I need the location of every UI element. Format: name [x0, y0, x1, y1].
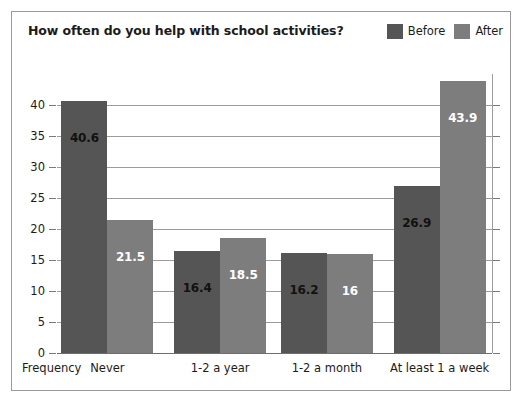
y-axis-tick-label: 15 — [17, 253, 45, 267]
x-axis-line — [57, 353, 492, 354]
y-axis-tick-label: 30 — [17, 160, 45, 174]
y-axis-tick-mark — [493, 167, 500, 168]
y-axis-tick-label: 0 — [17, 346, 45, 360]
bar-after-1-2-a-year: 18.5 — [220, 238, 266, 353]
gridline — [57, 136, 492, 137]
x-axis-category-label: At least 1 a week — [370, 361, 510, 375]
y-axis-tick-mark — [493, 291, 500, 292]
chart-screenshot: How often do you help with school activi… — [0, 0, 525, 407]
bar-value-label: 40.6 — [61, 131, 107, 145]
y-axis-tick-label: 10 — [17, 284, 45, 298]
bar-value-label: 16 — [327, 284, 373, 298]
bar-before-at-least-1-a-week: 26.9 — [394, 186, 440, 353]
y-axis-tick-mark — [49, 353, 56, 354]
y-axis-tick-mark — [493, 322, 500, 323]
bar-value-label: 26.9 — [394, 216, 440, 230]
bar-value-label: 18.5 — [220, 268, 266, 282]
y-axis-tick-mark — [49, 136, 56, 137]
y-axis-tick-label: 20 — [17, 222, 45, 236]
y-axis-tick-label: 35 — [17, 129, 45, 143]
gridline — [57, 105, 492, 106]
bar-value-label: 43.9 — [440, 111, 486, 125]
y-axis-tick-mark — [493, 260, 500, 261]
y-axis-tick-mark — [49, 167, 56, 168]
y-axis-tick-mark — [49, 260, 56, 261]
y-axis-tick-label: 5 — [17, 315, 45, 329]
bar-after-at-least-1-a-week: 43.9 — [440, 81, 486, 353]
right-axis-spine — [492, 74, 493, 353]
gridline — [57, 167, 492, 168]
bar-after-1-2-a-month: 16 — [327, 254, 373, 353]
bar-before-1-2-a-month: 16.2 — [281, 253, 327, 353]
y-axis-tick-mark — [49, 229, 56, 230]
bar-value-label: 16.2 — [281, 283, 327, 297]
y-axis-tick-mark — [493, 198, 500, 199]
y-axis-tick-mark — [493, 136, 500, 137]
bar-after-never: 21.5 — [107, 220, 153, 353]
plot-wrapper: 051015202530354040.621.516.418.516.21626… — [0, 0, 525, 407]
y-axis-tick-mark — [49, 198, 56, 199]
bar-value-label: 16.4 — [174, 281, 220, 295]
y-axis-tick-mark — [49, 291, 56, 292]
y-axis-tick-mark — [49, 322, 56, 323]
plot-area: 051015202530354040.621.516.418.516.21626… — [57, 74, 492, 353]
y-axis-tick-mark — [493, 105, 500, 106]
bar-before-never: 40.6 — [61, 101, 107, 353]
bar-value-label: 21.5 — [107, 250, 153, 264]
y-axis-tick-mark — [49, 105, 56, 106]
y-axis-tick-mark — [493, 229, 500, 230]
y-axis-tick-label: 40 — [17, 98, 45, 112]
bar-before-1-2-a-year: 16.4 — [174, 251, 220, 353]
y-axis-tick-label: 25 — [17, 191, 45, 205]
y-axis-tick-mark — [493, 353, 500, 354]
